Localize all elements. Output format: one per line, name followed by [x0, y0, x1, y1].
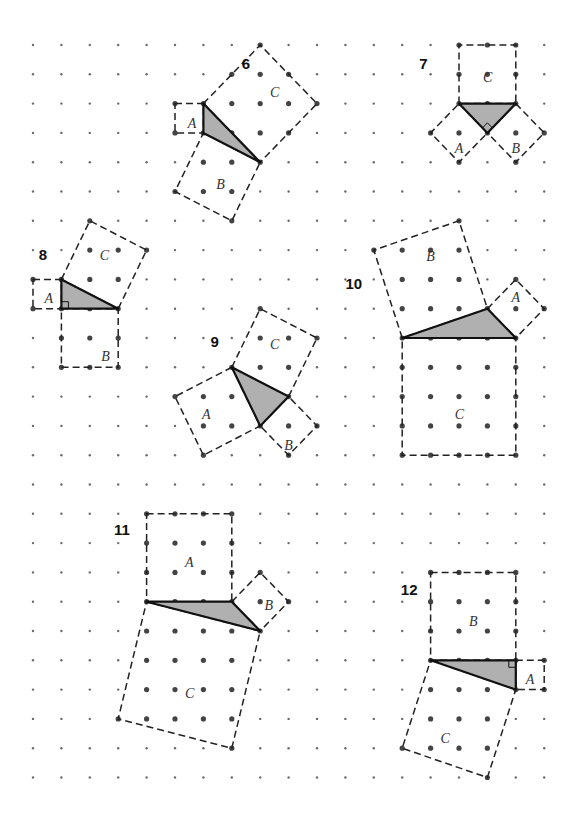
- lattice-dot: [174, 308, 176, 310]
- lattice-dot: [373, 454, 375, 456]
- lattice-dot-large: [428, 423, 433, 428]
- lattice-dot: [32, 366, 34, 368]
- lattice-dot: [231, 337, 233, 339]
- lattice-dot: [89, 776, 91, 778]
- lattice-dot-large: [201, 716, 206, 721]
- lattice-dot: [117, 190, 119, 192]
- lattice-dot-large: [201, 394, 206, 399]
- lattice-dot: [117, 132, 119, 134]
- right-triangle: [61, 279, 118, 308]
- lattice-dot: [32, 776, 34, 778]
- lattice-dot: [231, 44, 233, 46]
- lattice-dot-large: [456, 277, 461, 282]
- right-triangle: [459, 104, 516, 133]
- lattice-dot: [259, 718, 261, 720]
- lattice-dot: [287, 220, 289, 222]
- lattice-dot: [202, 366, 204, 368]
- lattice-dot: [515, 483, 517, 485]
- lattice-dot: [60, 73, 62, 75]
- lattice-dot-large: [201, 658, 206, 663]
- lattice-dot-large: [456, 746, 461, 751]
- lattice-dot: [543, 454, 545, 456]
- lattice-dot: [373, 718, 375, 720]
- lattice-dot: [32, 161, 34, 163]
- lattice-dot-large: [456, 248, 461, 253]
- lattice-dot: [174, 73, 176, 75]
- lattice-dot: [344, 425, 346, 427]
- lattice-dot: [174, 278, 176, 280]
- lattice-dot-large: [456, 599, 461, 604]
- lattice-dot: [515, 190, 517, 192]
- lattice-dot: [344, 249, 346, 251]
- lattice-dot-large: [456, 365, 461, 370]
- lattice-dot-large: [428, 599, 433, 604]
- lattice-dot: [60, 395, 62, 397]
- lattice-dot: [117, 102, 119, 104]
- lattice-dot: [543, 278, 545, 280]
- lattice-dot-large: [229, 658, 234, 663]
- lattice-dot-large: [258, 335, 263, 340]
- lattice-dot-large: [144, 658, 149, 663]
- lattice-dot: [344, 688, 346, 690]
- lattice-dot-large: [428, 716, 433, 721]
- lattice-dot: [316, 132, 318, 134]
- lattice-dot: [202, 44, 204, 46]
- lattice-dot: [401, 571, 403, 573]
- right-triangle: [232, 367, 289, 426]
- lattice-dot: [316, 630, 318, 632]
- lattice-dot-large: [229, 218, 234, 223]
- lattice-dot: [89, 132, 91, 134]
- lattice-dot: [32, 630, 34, 632]
- lattice-dot-large: [485, 599, 490, 604]
- lattice-dot: [89, 630, 91, 632]
- lattice-dot: [89, 102, 91, 104]
- lattice-dot: [373, 630, 375, 632]
- lattice-dot: [515, 718, 517, 720]
- lattice-dot: [145, 425, 147, 427]
- lattice-dot: [373, 688, 375, 690]
- lattice-dot: [373, 366, 375, 368]
- lattice-dot: [429, 542, 431, 544]
- lattice-dot: [344, 395, 346, 397]
- lattice-dot: [316, 308, 318, 310]
- lattice-dot: [515, 513, 517, 515]
- lattice-dot: [344, 161, 346, 163]
- lattice-dot-large: [400, 306, 405, 311]
- lattice-dot: [401, 220, 403, 222]
- lattice-dot: [145, 308, 147, 310]
- lattice-dot: [89, 542, 91, 544]
- lattice-dot: [89, 688, 91, 690]
- lattice-dot: [543, 220, 545, 222]
- lattice-dot: [401, 601, 403, 603]
- lattice-dot: [543, 483, 545, 485]
- lattice-dot-large: [428, 277, 433, 282]
- lattice-dot: [543, 542, 545, 544]
- lattice-dot-large: [201, 570, 206, 575]
- lattice-dot: [429, 220, 431, 222]
- lattice-dot: [373, 308, 375, 310]
- lattice-dot: [316, 601, 318, 603]
- lattice-dot: [117, 747, 119, 749]
- lattice-dot: [543, 102, 545, 104]
- figure-number: 11: [114, 521, 130, 538]
- lattice-dot: [344, 659, 346, 661]
- lattice-dot: [32, 132, 34, 134]
- lattice-dot: [202, 483, 204, 485]
- lattice-dot-large: [456, 423, 461, 428]
- lattice-dot-large: [485, 423, 490, 428]
- lattice-dot: [543, 747, 545, 749]
- lattice-dot: [89, 425, 91, 427]
- lattice-dot: [60, 571, 62, 573]
- lattice-dot: [373, 395, 375, 397]
- lattice-dot-large: [172, 716, 177, 721]
- lattice-dot: [344, 630, 346, 632]
- lattice-dot: [287, 44, 289, 46]
- lattice-dot-large: [116, 248, 121, 253]
- lattice-dot: [60, 44, 62, 46]
- lattice-dot-large: [87, 218, 92, 223]
- lattice-dot: [543, 571, 545, 573]
- square-label-c: C: [455, 407, 465, 422]
- lattice-dot: [60, 249, 62, 251]
- lattice-dot: [543, 425, 545, 427]
- lattice-dot-large: [201, 160, 206, 165]
